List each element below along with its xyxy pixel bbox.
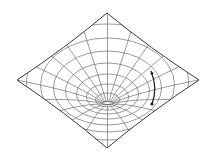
grid-radial-line	[25, 0, 105, 102]
grid-radial-line	[112, 104, 211, 132]
rotation-arrow-icon	[151, 71, 155, 104]
grid-radial-line	[0, 37, 103, 102]
arrow-tail-dot	[150, 102, 153, 105]
diamond-outline	[17, 13, 199, 148]
grid-radial-line	[110, 0, 190, 102]
curved-grid	[0, 0, 211, 162]
well-throat	[103, 102, 113, 105]
gravity-well-diagram	[0, 0, 211, 162]
grid-radial-line	[109, 0, 151, 102]
grid-radial-line	[64, 0, 106, 102]
grid-radial-line	[0, 8, 103, 102]
